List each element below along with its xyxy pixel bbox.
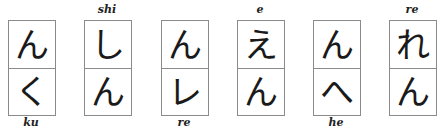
pair-2-top-kana: し <box>85 21 131 69</box>
pair-2: し ん <box>84 20 132 116</box>
pair-6: れ ん <box>389 20 437 116</box>
pair-6-label: re <box>382 3 442 16</box>
pair-6-top-kana: れ <box>390 21 436 69</box>
pair-4: え ん <box>237 20 285 116</box>
pair-1-label: ku <box>1 116 61 129</box>
pair-1-bottom-kana: く <box>9 68 55 115</box>
pair-5-top-kana: ん <box>314 21 360 69</box>
pair-4-label: e <box>230 3 290 16</box>
pair-2-bottom-kana: ん <box>85 68 131 115</box>
pair-4-top-kana: え <box>238 21 284 69</box>
pair-6-bottom-kana: ん <box>390 68 436 115</box>
pair-3-bottom-kana: レ <box>162 68 208 115</box>
pair-3-label: re <box>154 116 214 129</box>
pair-5: ん へ <box>313 20 361 116</box>
pair-3-top-kana: ん <box>162 21 208 69</box>
pair-5-bottom-kana: へ <box>314 68 360 115</box>
pair-3: ん レ <box>161 20 209 116</box>
pair-2-label: shi <box>77 3 137 16</box>
pair-1: ん く <box>8 20 56 116</box>
pair-5-label: he <box>306 116 366 129</box>
pair-1-top-kana: ん <box>9 21 55 69</box>
pair-4-bottom-kana: ん <box>238 68 284 115</box>
